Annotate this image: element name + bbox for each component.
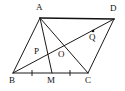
vertex-label-Q: Q (89, 33, 96, 42)
diagonal-BD (13, 19, 114, 73)
vertex-label-A: A (36, 3, 43, 12)
vertex-label-P: P (34, 47, 39, 56)
side-DC (88, 19, 114, 73)
side-AD (40, 18, 114, 19)
median-AM (40, 18, 52, 73)
vertex-label-D: D (110, 4, 117, 13)
vertex-label-B: B (9, 76, 15, 85)
figure-canvas (0, 0, 125, 91)
vertex-label-C: C (85, 76, 91, 85)
vertex-label-O: O (58, 50, 65, 59)
segment-group (13, 18, 114, 73)
geometry-figure: A D B C M P O Q (0, 0, 125, 91)
vertex-label-M: M (47, 76, 55, 85)
